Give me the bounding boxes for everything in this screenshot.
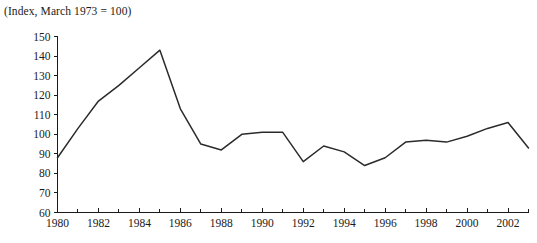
y-tick-label: 100: [33, 128, 51, 140]
y-tick-label: 70: [39, 187, 51, 199]
x-tick-label: 1980: [46, 217, 69, 229]
x-tick-label: 1990: [251, 217, 274, 229]
data-series-group: [58, 50, 529, 165]
x-tick-label: 2000: [456, 217, 479, 229]
index-line-chart: (Index, March 1973 = 100) 60708090100110…: [0, 0, 537, 243]
x-tick-label: 1994: [333, 217, 356, 229]
data-line-index: [58, 50, 529, 165]
y-axis: 60708090100110120130140150: [33, 31, 57, 219]
x-tick-label: 1982: [87, 217, 110, 229]
x-tick-label: 1988: [210, 217, 233, 229]
y-tick-label: 80: [39, 167, 51, 179]
x-tick-label: 1996: [374, 217, 397, 229]
y-tick-label: 130: [33, 70, 51, 82]
plot-area: 60708090100110120130140150 1980198219841…: [0, 0, 537, 243]
y-tick-label: 120: [33, 89, 51, 101]
x-tick-label: 1998: [415, 217, 438, 229]
y-tick-label: 110: [34, 109, 51, 121]
x-tick-label: 1992: [292, 217, 315, 229]
y-tick-label: 140: [33, 50, 51, 62]
x-tick-label: 1986: [169, 217, 192, 229]
x-tick-label: 2002: [497, 217, 520, 229]
y-tick-label: 90: [39, 148, 51, 160]
x-tick-label: 1984: [128, 217, 151, 229]
x-axis: 1980198219841986198819901992199419961998…: [46, 208, 529, 229]
y-tick-label: 150: [33, 31, 51, 43]
